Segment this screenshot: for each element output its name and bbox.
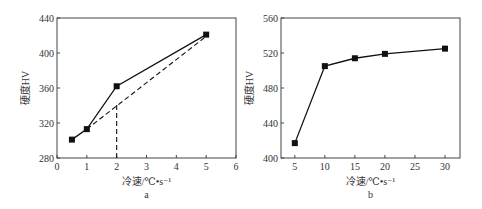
y-tick-label: 280	[39, 153, 54, 164]
data-point	[352, 55, 358, 61]
x-tick-label: 15	[350, 161, 360, 172]
y-tick-label: 480	[263, 83, 278, 94]
x-tick-label: 3	[144, 161, 149, 172]
data-point	[114, 83, 120, 89]
y-tick-label: 440	[39, 13, 54, 24]
x-axis-label: 冷速/℃•s⁻¹	[122, 175, 172, 187]
series-trend	[87, 36, 206, 129]
x-tick-label: 5	[204, 161, 209, 172]
plot-frame	[57, 18, 236, 158]
x-axis-label: 冷速/℃•s⁻¹	[346, 175, 396, 187]
y-axis-label: 硬度HV	[19, 70, 31, 105]
data-point	[69, 137, 75, 143]
y-tick-label: 360	[39, 83, 54, 94]
data-point	[322, 63, 328, 69]
y-tick-label: 520	[263, 48, 278, 59]
chart-canvas: 0123456280320360400440冷速/℃•s⁻¹硬度HVa51015…	[0, 0, 482, 209]
x-tick-label: 10	[320, 161, 330, 172]
series-measured	[295, 49, 445, 144]
plot-frame	[281, 18, 460, 158]
series-measured	[72, 35, 206, 140]
x-tick-label: 20	[380, 161, 390, 172]
chart-panel-b: 51015202530400440480520560冷速/℃•s⁻¹硬度HVb	[243, 13, 460, 200]
y-tick-label: 440	[263, 118, 278, 129]
x-tick-label: 6	[234, 161, 239, 172]
data-point	[203, 32, 209, 38]
panel-label: b	[368, 189, 373, 200]
x-tick-label: 30	[440, 161, 450, 172]
data-point	[382, 51, 388, 57]
data-point	[292, 140, 298, 146]
y-tick-label: 400	[263, 153, 278, 164]
chart-panel-a: 0123456280320360400440冷速/℃•s⁻¹硬度HVa	[19, 13, 239, 200]
x-tick-label: 5	[292, 161, 297, 172]
data-point	[442, 46, 448, 52]
x-tick-label: 1	[84, 161, 89, 172]
y-axis-label: 硬度HV	[243, 70, 255, 105]
panel-label: a	[144, 189, 149, 200]
x-tick-label: 0	[55, 161, 60, 172]
y-tick-label: 560	[263, 13, 278, 24]
x-tick-label: 4	[174, 161, 179, 172]
x-tick-label: 2	[114, 161, 119, 172]
x-tick-label: 25	[410, 161, 420, 172]
y-tick-label: 400	[39, 48, 54, 59]
y-tick-label: 320	[39, 118, 54, 129]
